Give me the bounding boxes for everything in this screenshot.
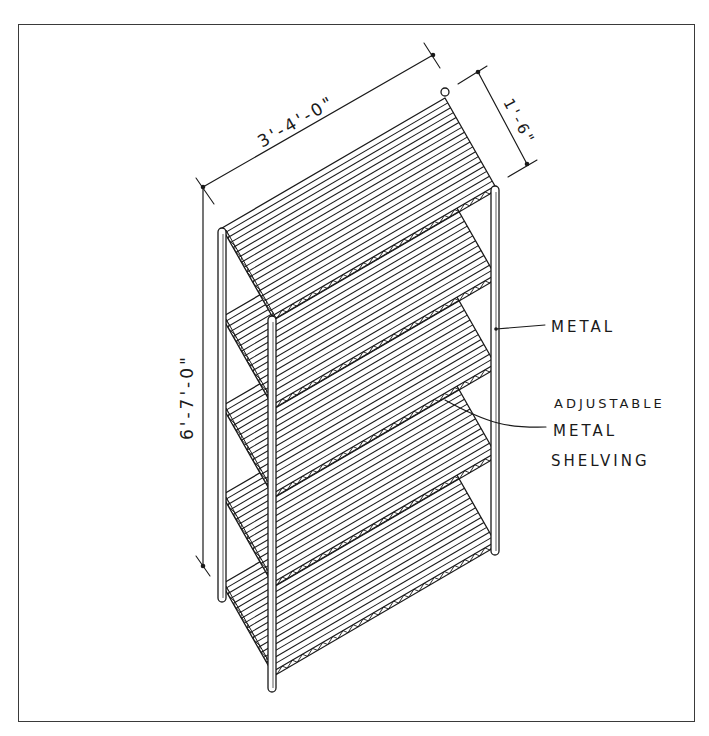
height-dimension: 6'-7'-0" [177,187,210,576]
shelving-callout-line2: METAL [553,422,617,440]
height-dimension-label: 6'-7'-0" [177,354,197,440]
post-front-left [268,316,276,692]
shelving-callout-line1: ADJUSTABLE [554,396,665,411]
metal-callout-label: METAL [551,318,615,336]
post-back-right-cap [441,88,449,96]
post-front-right [491,186,499,555]
depth-dimension-label: 1'-6" [499,95,539,148]
shelves [222,98,495,677]
width-dimension-label: 3'-4'-0" [254,91,338,151]
post-back-left [218,228,226,602]
shelving-sketch: 3'-4'-0" 1'-6" 6'-7'-0" METAL ADJUSTABLE… [0,0,709,736]
shelving-callout-line3: SHELVING [551,452,650,470]
metal-callout: METAL [494,318,615,336]
